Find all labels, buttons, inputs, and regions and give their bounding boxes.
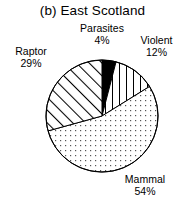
pie-wedge-group [46,60,158,172]
slice-label-mammal: Mammal 54% [115,174,175,197]
slice-label-mammal-value: 54% [115,186,175,198]
slice-label-raptor-name: Raptor [2,46,60,58]
slice-label-mammal-name: Mammal [115,174,175,186]
slice-label-raptor: Raptor 29% [2,46,60,69]
slice-label-raptor-value: 29% [2,58,60,70]
slice-label-violent: Violent 12% [128,35,185,58]
slice-label-parasites-name: Parasites [72,23,132,35]
slice-label-violent-name: Violent [128,35,185,47]
slice-label-violent-value: 12% [128,47,185,59]
slice-label-parasites-value: 4% [72,35,132,47]
pie-chart-figure: (b) East Scotland Parasites 4% Violent 1… [0,0,185,204]
slice-label-parasites: Parasites 4% [72,23,132,46]
